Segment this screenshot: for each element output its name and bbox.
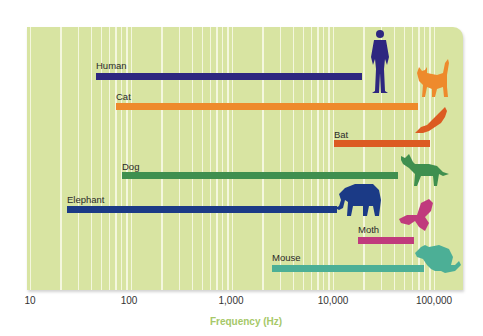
grid-line [216,27,217,290]
bar-elephant [67,206,337,213]
grid-line [60,27,61,290]
bar-label-mouse: Mouse [272,252,301,263]
x-tick-10000: 10,000 [318,295,349,306]
grid-line [179,27,180,290]
grid-line [317,27,318,290]
grid-line [262,27,263,290]
x-tick-100000: 100,000 [416,295,452,306]
grid-line [394,27,395,290]
moth-silhouette-icon [399,199,437,233]
grid-line [323,27,324,290]
x-axis-title: Frequency (Hz) [210,316,282,327]
grid-line [222,27,223,290]
dog-silhouette-icon [399,152,451,188]
grid-line [161,27,162,290]
grid-line [131,27,132,290]
bar-human [96,73,362,80]
grid-line [202,27,203,290]
grid-line [192,27,193,290]
bat-silhouette-icon [413,105,449,135]
grid-line [30,27,31,290]
bar-label-moth: Moth [358,224,379,235]
grid-line [210,27,211,290]
grid-line [227,27,228,290]
grid-line [91,27,92,290]
elephant-silhouette-icon [335,182,383,218]
bar-label-dog: Dog [122,161,139,172]
bar-label-elephant: Elephant [67,194,105,205]
cat-silhouette-icon [415,57,451,99]
grid-line [232,27,233,290]
bar-mouse [272,265,424,272]
x-tick-1000: 1,000 [218,295,243,306]
bar-moth [358,237,414,244]
bar-label-human: Human [96,60,127,71]
grid-line [333,27,334,290]
grid-line [328,27,329,290]
x-tick-10: 10 [24,295,35,306]
grid-line [303,27,304,290]
chart-panel: Human Cat Bat Dog Elephant Moth Mouse [27,27,463,290]
bar-dog [122,172,398,179]
grid-line [293,27,294,290]
grid-line [311,27,312,290]
bar-cat [116,103,418,110]
grid-line [363,27,364,290]
bar-label-bat: Bat [334,129,348,140]
bar-label-cat: Cat [116,91,131,102]
human-silhouette-icon [367,29,393,95]
mouse-silhouette-icon [415,243,463,275]
grid-line [78,27,79,290]
x-tick-100: 100 [121,295,138,306]
bar-bat [334,140,430,147]
grid-line [280,27,281,290]
